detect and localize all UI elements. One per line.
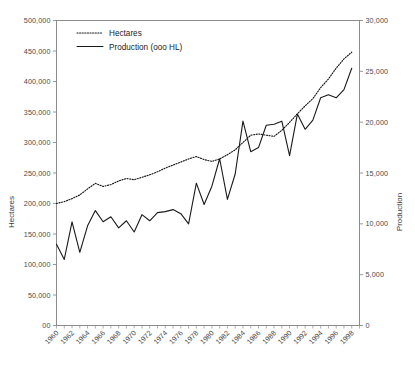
y-axis-right-tick-label: 10,000 xyxy=(366,219,389,228)
chart-background xyxy=(0,0,415,366)
y-axis-right-tick-label: 5,000 xyxy=(366,270,385,279)
wine-hectares-production-line-chart: 0050,000100,000150,000200,000250,000300,… xyxy=(0,0,415,366)
legend-label-production: Production (ooo HL) xyxy=(109,43,183,52)
y-axis-right-tick-label: 20,000 xyxy=(366,118,389,127)
y-axis-right-tick-label: 0 xyxy=(366,321,370,330)
y-axis-left-title: Hectares xyxy=(7,196,16,228)
y-axis-left-tick-label: 300,000 xyxy=(24,138,51,147)
y-axis-left-tick-label: 450,000 xyxy=(24,47,51,56)
y-axis-left-tick-label: 00 xyxy=(42,321,50,330)
y-axis-left-tick-label: 100,000 xyxy=(24,260,51,269)
chart-container: 0050,000100,000150,000200,000250,000300,… xyxy=(0,0,415,366)
y-axis-left-tick-label: 500,000 xyxy=(24,16,51,25)
y-axis-left-tick-label: 150,000 xyxy=(24,230,51,239)
y-axis-left-tick-label: 50,000 xyxy=(28,291,51,300)
y-axis-left-tick-label: 200,000 xyxy=(24,199,51,208)
y-axis-right-tick-label: 30,000 xyxy=(366,16,389,25)
y-axis-right-title: Production xyxy=(395,193,404,231)
legend-label-hectares: Hectares xyxy=(109,29,142,38)
y-axis-left-tick-label: 350,000 xyxy=(24,108,51,117)
y-axis-left-tick-label: 400,000 xyxy=(24,77,51,86)
y-axis-right-tick-label: 25,000 xyxy=(366,67,389,76)
y-axis-right-tick-label: 15,000 xyxy=(366,169,389,178)
y-axis-left-tick-label: 250,000 xyxy=(24,169,51,178)
